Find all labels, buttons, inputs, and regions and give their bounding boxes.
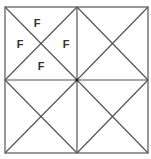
label-bottom: F bbox=[38, 60, 45, 72]
label-top: F bbox=[34, 17, 41, 29]
label-left: F bbox=[17, 38, 24, 50]
label-right: F bbox=[63, 38, 70, 50]
center-dot bbox=[76, 79, 79, 82]
quadrant-diagram: F F F F bbox=[0, 0, 151, 159]
